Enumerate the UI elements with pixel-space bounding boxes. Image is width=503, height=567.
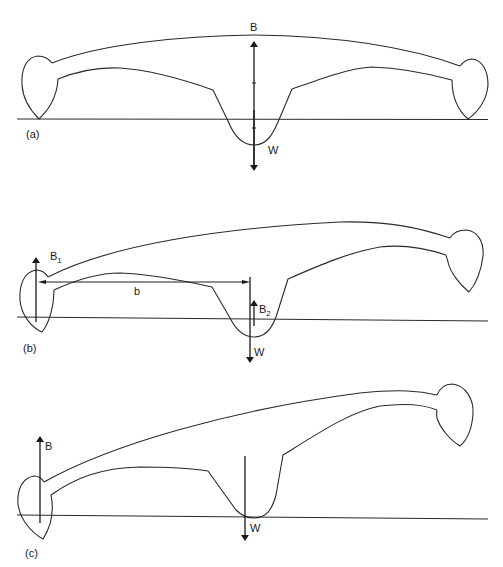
right-float-a bbox=[452, 59, 488, 119]
label-lever-arm: b bbox=[134, 285, 140, 297]
label-b-a: B bbox=[250, 21, 257, 33]
upper-deck-b bbox=[48, 222, 450, 277]
panel-c: B W (c) bbox=[17, 384, 488, 559]
upper-deck-a bbox=[52, 35, 460, 66]
label-w-b: W bbox=[254, 346, 265, 358]
caption-c: (c) bbox=[25, 547, 38, 559]
right-float-b bbox=[446, 230, 483, 292]
dimension-arrow-left bbox=[38, 280, 46, 284]
left-float-a bbox=[22, 56, 58, 119]
left-float-c bbox=[18, 476, 52, 539]
dimension-arrow-right bbox=[242, 280, 250, 284]
label-b1: B1 bbox=[50, 250, 62, 265]
upper-deck-c bbox=[44, 391, 437, 482]
label-w-c: W bbox=[250, 522, 261, 534]
caption-a: (a) bbox=[26, 128, 39, 140]
label-w-a: W bbox=[268, 144, 279, 156]
label-b2: B2 bbox=[259, 303, 271, 318]
panel-a: B W (a) bbox=[17, 21, 488, 168]
main-hull-a bbox=[58, 67, 452, 145]
trimaran-stability-diagram: B W (a) B1 B2 W b (b) bbox=[0, 0, 503, 567]
waterline-b bbox=[17, 317, 488, 321]
right-float-c bbox=[437, 384, 474, 446]
left-float-b bbox=[20, 270, 54, 332]
caption-b: (b) bbox=[23, 342, 36, 354]
panel-b: B1 B2 W b (b) bbox=[17, 222, 488, 360]
waterline-a bbox=[17, 119, 488, 120]
main-hull-c bbox=[51, 405, 437, 518]
label-b-c: B bbox=[45, 440, 52, 452]
